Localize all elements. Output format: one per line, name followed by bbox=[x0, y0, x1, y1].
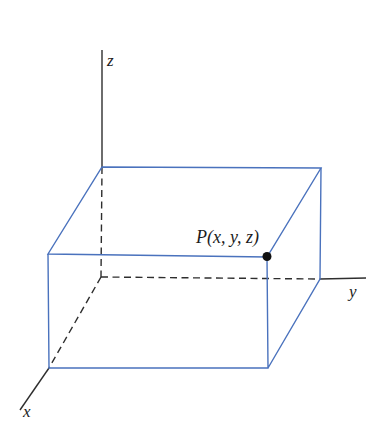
z-axis-label: z bbox=[106, 51, 114, 70]
x-axis-label: x bbox=[22, 402, 31, 421]
figure-svg: z y x P(x, y, z) bbox=[0, 0, 386, 436]
box-front-right-edges bbox=[48, 168, 321, 368]
y-axis-line bbox=[320, 278, 366, 279]
box-top-face bbox=[48, 167, 321, 257]
y-axis-label: y bbox=[347, 282, 357, 301]
hidden-edge-z bbox=[101, 167, 102, 277]
point-p-dot bbox=[263, 252, 272, 261]
hidden-edge-y bbox=[101, 277, 320, 279]
coordinate-box-figure: z y x P(x, y, z) bbox=[0, 0, 386, 436]
point-p-label: P(x, y, z) bbox=[195, 227, 259, 248]
hidden-edge-x bbox=[49, 277, 101, 368]
